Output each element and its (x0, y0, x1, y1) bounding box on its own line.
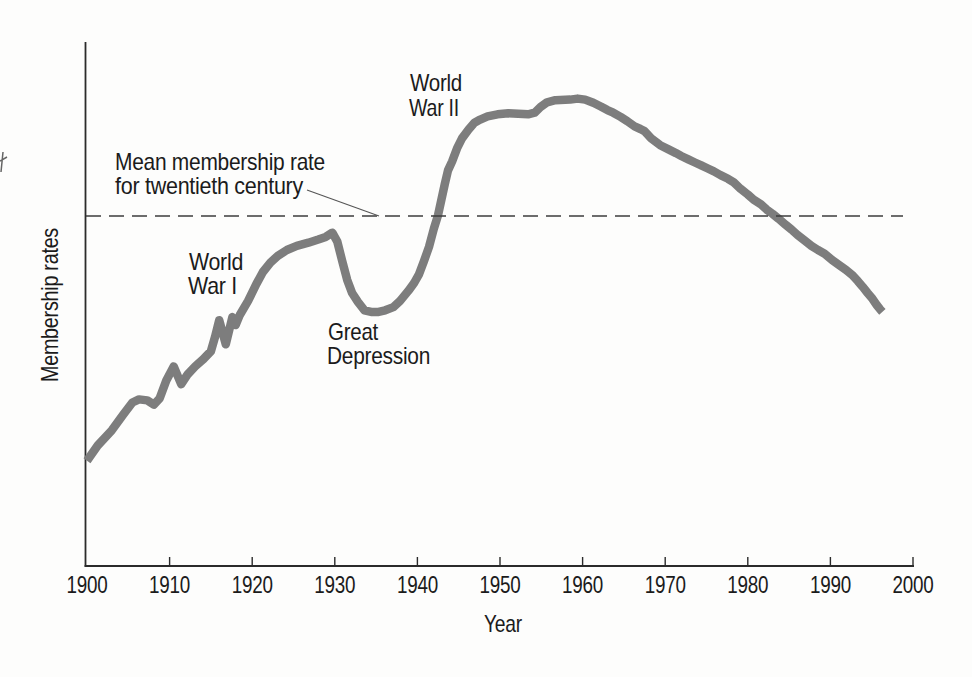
x-tick-label: 1940 (397, 571, 438, 598)
annotation-ww2-line1: World (410, 69, 462, 96)
annotation-depression-line1: Great (328, 318, 379, 345)
x-axis-title: Year (484, 610, 522, 637)
annotation-mean-line1: Mean membership rate (115, 148, 325, 175)
x-tick-label: 1970 (645, 571, 686, 598)
annotation-world-war-2: World War II (409, 69, 462, 121)
scan-artifact-mark (0, 152, 7, 172)
annotation-mean-rate: Mean membership rate for twentieth centu… (115, 148, 325, 199)
x-tick-label: 1990 (810, 571, 851, 598)
annotation-mean-line2: for twentieth century (115, 172, 303, 199)
membership-rate-chart: 1900191019201930194019501960197019801990… (0, 0, 972, 677)
x-tick-label: 2000 (893, 571, 934, 598)
x-tick-label: 1920 (232, 571, 273, 598)
x-tick-label: 1900 (67, 571, 108, 598)
annotation-ww1-line2: War I (188, 272, 237, 299)
annotation-leader-line (307, 190, 379, 216)
annotation-great-depression: Great Depression (327, 318, 430, 369)
x-tick-label: 1910 (149, 571, 190, 598)
axes (85, 42, 914, 567)
x-tick-label: 1960 (562, 571, 603, 598)
figure: 1900191019201930194019501960197019801990… (0, 0, 972, 677)
annotation-depression-line2: Depression (327, 342, 430, 369)
x-tick-label: 1930 (314, 571, 355, 598)
x-axis-ticks: 1900191019201930194019501960197019801990… (67, 557, 934, 598)
annotation-world-war-1: World War I (188, 248, 243, 299)
annotation-ww1-line1: World (189, 248, 243, 275)
annotation-ww2-line2: War II (409, 94, 459, 121)
y-axis-title: Membership rates (36, 228, 63, 382)
x-tick-label: 1980 (727, 571, 768, 598)
x-tick-label: 1950 (480, 571, 521, 598)
